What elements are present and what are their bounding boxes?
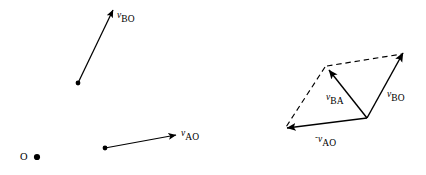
vector-subscript-vba: BA — [330, 96, 344, 106]
vector-subscript-vbo-resultant: BO — [391, 93, 405, 103]
construction-line-dash-left — [286, 67, 325, 127]
vector-arrow-vbo — [78, 10, 113, 83]
vector-label-vbo: vBO — [117, 7, 135, 24]
vector-subscript-vao: AO — [185, 132, 199, 142]
left-diagram-group — [34, 10, 176, 160]
vector-arrow-vao — [105, 135, 176, 148]
vector-subscript-vbo: BO — [121, 14, 135, 24]
vector-label-vao: vAO — [181, 125, 199, 142]
vector-arrow-negative-vao — [287, 118, 367, 128]
vector-tail-dot-vbo — [76, 81, 81, 86]
vector-label-vba: vBA — [326, 89, 344, 106]
pole-point-dot — [34, 154, 40, 160]
vector-diagram-figure: O vBO vAO vBO vBA -vAO — [0, 0, 426, 175]
vector-subscript-negative-vao: AO — [322, 138, 336, 148]
right-diagram-group — [286, 53, 403, 128]
construction-line-dash-top — [327, 54, 402, 66]
pole-label-o: O — [20, 152, 28, 163]
vector-label-negative-vao: -vAO — [315, 131, 336, 148]
vector-tail-dot-vao — [103, 146, 108, 151]
diagram-canvas — [0, 0, 426, 175]
vector-label-vbo-resultant: vBO — [387, 86, 405, 103]
